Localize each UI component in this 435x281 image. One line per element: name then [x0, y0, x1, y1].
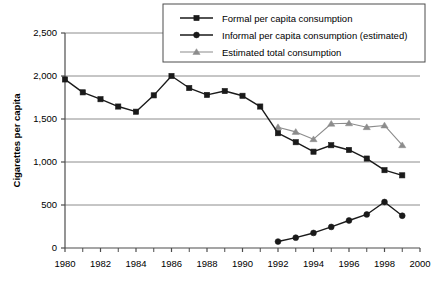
- marker-square: [194, 15, 199, 20]
- marker-square: [364, 156, 369, 161]
- marker-triangle: [381, 122, 388, 128]
- y-axis-title: Cigarettes per capita: [11, 93, 22, 188]
- x-tick-label: 1988: [196, 258, 217, 269]
- marker-square: [240, 93, 245, 98]
- marker-square: [133, 109, 138, 114]
- marker-square: [258, 104, 263, 109]
- x-tick-label: 1994: [303, 258, 324, 269]
- legend: Formal per capita consumptionInformal pe…: [163, 4, 425, 62]
- y-tick-label: 1,000: [33, 156, 57, 167]
- x-tick-label: 1992: [267, 258, 288, 269]
- marker-square: [80, 90, 85, 95]
- marker-square: [187, 85, 192, 90]
- line-chart: 05001,0001,5002,0002,500Cigarettes per c…: [0, 0, 435, 281]
- marker-square: [116, 104, 121, 109]
- legend-label: Informal per capita consumption (estimat…: [222, 30, 407, 41]
- marker-square: [222, 88, 227, 93]
- x-tick-label: 1984: [125, 258, 146, 269]
- marker-square: [275, 131, 280, 136]
- series-2: [275, 199, 405, 244]
- marker-square: [204, 92, 209, 97]
- marker-square: [169, 73, 174, 78]
- marker-square: [62, 77, 67, 82]
- x-tick-label: 2000: [409, 258, 430, 269]
- marker-circle: [382, 199, 388, 205]
- marker-square: [382, 168, 387, 173]
- chart-container: 05001,0001,5002,0002,500Cigarettes per c…: [0, 0, 435, 281]
- marker-circle: [399, 213, 405, 219]
- y-tick-label: 500: [41, 199, 57, 210]
- marker-square: [311, 149, 316, 154]
- x-tick-label: 1980: [54, 258, 75, 269]
- y-tick-label: 0: [52, 242, 57, 253]
- x-tick-label: 1998: [374, 258, 395, 269]
- marker-square: [329, 143, 334, 148]
- marker-square: [400, 173, 405, 178]
- marker-circle: [275, 239, 281, 245]
- marker-circle: [364, 212, 370, 218]
- marker-square: [293, 140, 298, 145]
- marker-circle: [194, 32, 200, 38]
- marker-square: [98, 97, 103, 102]
- legend-label: Estimated total consumption: [222, 47, 341, 58]
- x-tick-label: 1982: [90, 258, 111, 269]
- y-tick-label: 2,500: [33, 27, 57, 38]
- marker-circle: [328, 224, 334, 230]
- marker-square: [346, 147, 351, 152]
- marker-square: [151, 93, 156, 98]
- legend-label: Formal per capita consumption: [222, 13, 352, 24]
- x-axis-ticks: 1980198219841986198819901992199419961998…: [54, 248, 430, 269]
- y-tick-label: 2,000: [33, 70, 57, 81]
- y-tick-label: 1,500: [33, 113, 57, 124]
- marker-circle: [311, 230, 317, 236]
- x-tick-label: 1990: [232, 258, 253, 269]
- marker-circle: [346, 218, 352, 224]
- marker-circle: [293, 235, 299, 241]
- x-tick-label: 1996: [338, 258, 359, 269]
- x-tick-label: 1986: [161, 258, 182, 269]
- y-axis-ticks: 05001,0001,5002,0002,500: [33, 27, 65, 253]
